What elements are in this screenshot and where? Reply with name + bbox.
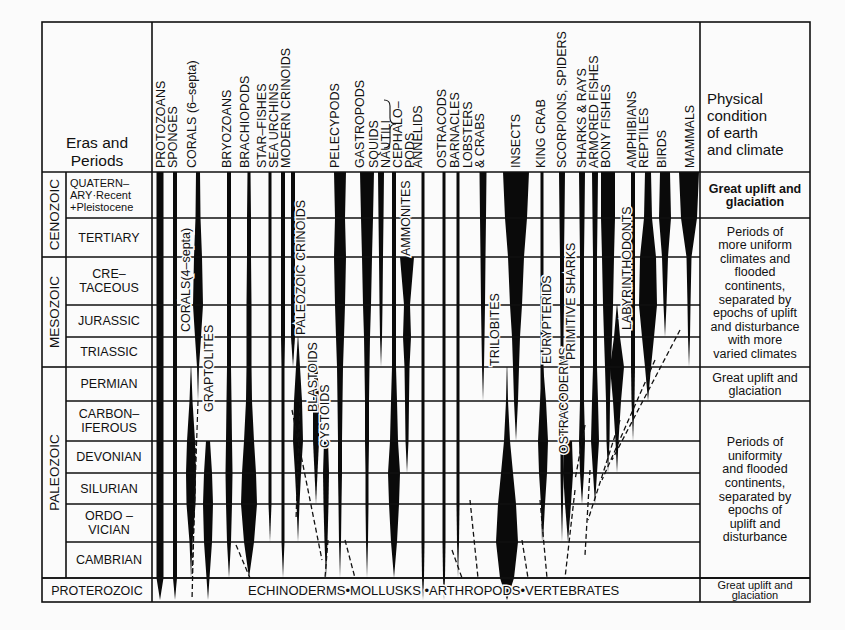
column-header: ANNELIDS: [411, 105, 425, 168]
climate-text: varied climates: [713, 347, 796, 361]
period-label: DEVONIAN: [76, 450, 141, 464]
taxon-label: CYSTOIDS: [318, 384, 332, 448]
lineage-barnacles: [457, 172, 460, 578]
column-header: BRYOZOANS: [220, 90, 234, 168]
climate-text: epochs of uplift: [713, 306, 798, 320]
lineage-sponges: [173, 172, 177, 600]
era-label: CENOZOIC: [47, 179, 62, 251]
climate-text: continents,: [725, 476, 785, 490]
condition-header: of earth: [707, 124, 758, 141]
climate-text: uplift and: [730, 517, 781, 531]
period-label: SILURIAN: [80, 482, 138, 496]
column-header: BRACHIOPODS: [238, 76, 252, 168]
condition-header: Physical: [707, 90, 763, 107]
column-header: BONY FISHES: [599, 84, 613, 168]
period-label: +Pleistocene: [70, 201, 133, 213]
taxon-label: AMMONITES: [399, 180, 413, 256]
period-label: PERMIAN: [81, 377, 138, 391]
column-header: SPONGES: [166, 106, 180, 168]
climate-text: climates and: [720, 252, 790, 266]
period-label: QUATERN–: [70, 177, 130, 189]
column-header: OSTRACODS: [435, 89, 449, 168]
column-header: MODERN CRINOIDS: [279, 48, 293, 168]
taxon-label: TRILOBITES: [488, 293, 502, 366]
climate-text: disturbance: [723, 530, 788, 544]
climate-text: separated by: [719, 293, 792, 307]
era-label: PALEOZOIC: [47, 434, 62, 511]
climate-text: Periods of: [727, 225, 784, 239]
lineage-star-fishes: [269, 172, 272, 542]
taxon-label: EURYPTERIDS: [540, 275, 554, 364]
period-label: TERTIARY: [78, 231, 140, 245]
column-header: BARNACLES: [448, 92, 462, 168]
lineage-sea-urchins: [281, 172, 285, 578]
climate-text: Great uplift and: [709, 182, 801, 196]
period-label: TACEOUS: [79, 281, 139, 295]
lineage-protozoans: [157, 172, 164, 600]
column-header: & CRABS: [473, 113, 487, 168]
condition-header: condition: [707, 107, 767, 124]
climate-text: Periods of: [727, 435, 784, 449]
taxon-label: PALEOZOIC CRINOIDS: [294, 200, 308, 335]
eras-header: Eras and: [66, 134, 128, 151]
lineage-annelids: [422, 172, 425, 600]
period-label: CAMBRIAN: [76, 553, 142, 567]
period-label: VICIAN: [88, 523, 130, 537]
column-header: KING CRAB: [534, 99, 548, 168]
climate-text: more uniform: [718, 238, 792, 252]
period-label: ARY·Recent: [70, 189, 131, 201]
climate-text: and disturbance: [711, 320, 800, 334]
climate-text: separated by: [719, 490, 792, 504]
column-header: MAMMALS: [683, 105, 697, 168]
taxon-label: PRIMITIVE SHARKS: [564, 243, 578, 360]
column-header: PELECYPODS: [328, 83, 342, 168]
taxon-label: GRAPTOLITES: [202, 325, 216, 412]
climate-text: Great uplift and: [712, 371, 798, 385]
period-label: CARBON–: [79, 407, 139, 421]
column-header: SCORPIONS, SPIDERS: [555, 31, 569, 168]
periods-header: Periods: [71, 152, 124, 169]
climate-text: uniformity: [728, 449, 783, 463]
column-header: CORALS (6–septa): [185, 60, 199, 168]
climate-text: glaciation: [726, 195, 784, 209]
period-label: TRIASSIC: [80, 345, 138, 359]
period-label: CRE–: [92, 267, 125, 281]
taxon-label: LABYRINTHODONTS: [620, 206, 634, 330]
taxon-label: OSTRACODERMS: [557, 347, 571, 454]
period-label: JURASSIC: [78, 314, 140, 328]
column-header: GASTROPODS: [353, 80, 367, 168]
climate-text: with more: [727, 333, 782, 347]
taxon-label: CORALS(4–septa): [179, 228, 193, 332]
era-label: MESOZOIC: [47, 276, 62, 348]
lineage-ostracods: [443, 172, 446, 600]
column-header: BIRDS: [655, 130, 669, 168]
climate-text: glaciation: [732, 589, 778, 601]
climate-text: glaciation: [729, 384, 782, 398]
period-label: ORDO –: [85, 509, 133, 523]
column-header: REPTILES: [637, 108, 651, 168]
period-label: IFEROUS: [81, 421, 137, 435]
climate-text: and flooded: [722, 462, 787, 476]
condition-header: and climate: [707, 141, 784, 158]
phylum-groups-footer: ECHINODERMS•MOLLUSKS •ARTHROPODS•VERTEBR…: [248, 583, 620, 598]
climate-text: continents,: [725, 279, 785, 293]
geologic-timeline-chart: QUATERN–ARY·Recent+PleistoceneTERTIARYCR…: [0, 0, 845, 630]
climate-text: flooded: [734, 265, 775, 279]
column-header: INSECTS: [509, 114, 523, 168]
era-label-proterozoic: PROTEROZOIC: [51, 584, 143, 598]
climate-text: epochs of: [728, 503, 783, 517]
